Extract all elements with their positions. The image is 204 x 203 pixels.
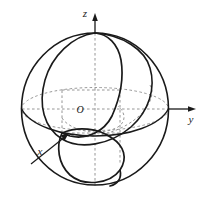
- sphere-diagram-svg: z y x O: [0, 0, 204, 203]
- spherical-curve-lower-loop: [59, 129, 124, 183]
- figure-container: z y x O: [0, 0, 204, 203]
- origin-label: O: [76, 104, 83, 115]
- x-axis-label: x: [37, 145, 43, 157]
- y-axis-arrowhead: [188, 106, 196, 112]
- y-axis-label: y: [188, 113, 194, 125]
- z-axis-label: z: [82, 7, 88, 19]
- spherical-curve-upper-branch: [62, 33, 122, 137]
- z-axis-arrowhead: [92, 13, 98, 21]
- spherical-curve-group: [59, 33, 124, 186]
